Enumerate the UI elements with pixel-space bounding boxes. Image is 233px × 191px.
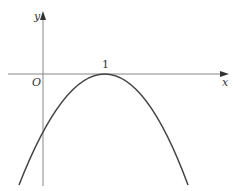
parabola-curve: [19, 74, 188, 185]
vertex-tick-label: 1: [102, 58, 109, 71]
parabola-diagram: y x O 1: [0, 0, 233, 191]
x-axis: [8, 71, 229, 77]
origin-label: O: [32, 76, 41, 89]
y-axis: [40, 11, 46, 186]
y-axis-arrow-icon: [40, 11, 46, 20]
x-axis-label: x: [222, 76, 229, 89]
y-axis-label: y: [33, 10, 41, 23]
